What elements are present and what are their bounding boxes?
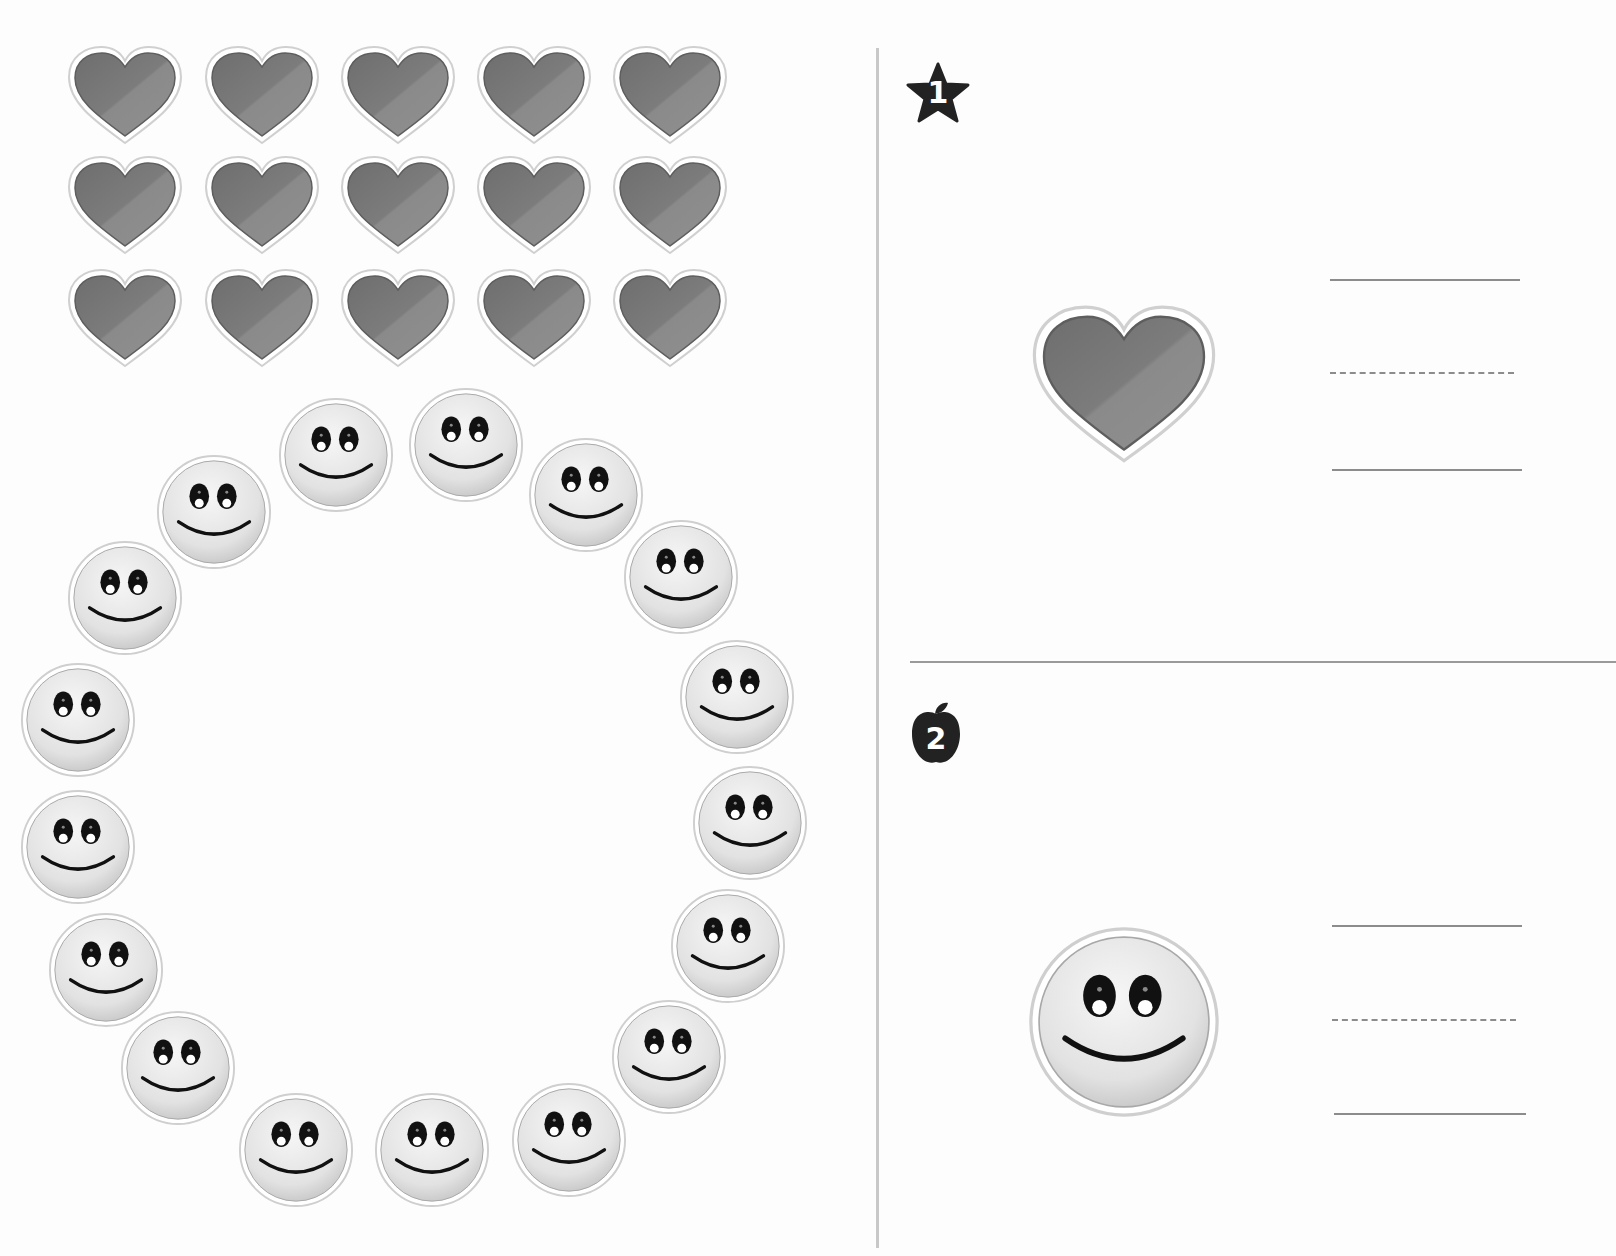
answer-line-dashed[interactable]: [1330, 372, 1514, 374]
smiley-icon: [691, 764, 809, 882]
heart-icon: [610, 266, 728, 370]
heart-icon: [65, 153, 183, 257]
heart-icon: [65, 43, 183, 147]
exercise-number: 1: [906, 78, 970, 108]
star-badge-icon: 1: [906, 62, 966, 122]
apple-badge-icon: 2: [908, 700, 968, 760]
smiley-icon: [407, 386, 525, 504]
smiley-icon: [622, 518, 740, 636]
answer-line-dashed[interactable]: [1332, 1019, 1516, 1021]
smiley-icon: [678, 638, 796, 756]
heart-icon: [202, 266, 320, 370]
smiley-icon: [19, 661, 137, 779]
heart-icon: [338, 266, 456, 370]
answer-line-solid[interactable]: [1332, 925, 1522, 927]
heart-icon: [338, 153, 456, 257]
answer-line-solid[interactable]: [1332, 469, 1522, 471]
heart-icon: [610, 43, 728, 147]
sample-smiley-icon: [1026, 924, 1222, 1124]
smiley-icon: [373, 1091, 491, 1209]
answer-line-solid[interactable]: [1330, 279, 1520, 281]
vertical-divider: [876, 48, 879, 1248]
heart-icon: [65, 266, 183, 370]
heart-icon: [474, 153, 592, 257]
heart-icon: [610, 153, 728, 257]
smiley-icon: [237, 1091, 355, 1209]
smiley-icon: [669, 887, 787, 1005]
smiley-icon: [19, 788, 137, 906]
smiley-icon: [510, 1081, 628, 1199]
heart-icon: [474, 43, 592, 147]
horizontal-divider: [910, 661, 1616, 663]
heart-icon: [202, 43, 320, 147]
answer-line-solid[interactable]: [1334, 1113, 1526, 1115]
heart-icon: [202, 153, 320, 257]
smiley-icon: [155, 453, 273, 571]
heart-icon: [474, 266, 592, 370]
smiley-icon: [277, 396, 395, 514]
smiley-icon: [47, 911, 165, 1029]
exercise-number: 2: [908, 722, 964, 756]
heart-icon: [338, 43, 456, 147]
sample-heart-icon: [1028, 300, 1220, 472]
